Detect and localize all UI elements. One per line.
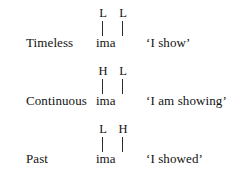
category-label-timeless: Timeless bbox=[26, 36, 73, 50]
category-label-continuous: Continuous bbox=[26, 94, 87, 108]
paradigm-row: Continuous H L ima ‘I am showing’ bbox=[0, 58, 248, 116]
tone-letter-second: L bbox=[117, 64, 129, 78]
category-label-past: Past bbox=[26, 152, 48, 166]
autosegmental-column: H L ima bbox=[96, 58, 142, 116]
association-lines bbox=[96, 21, 142, 36]
tone-letter-second: H bbox=[117, 122, 129, 136]
association-lines bbox=[96, 137, 142, 152]
association-line-second bbox=[122, 21, 123, 36]
tone-letter-first: H bbox=[97, 64, 109, 78]
gloss-timeless: ‘I show’ bbox=[146, 36, 191, 50]
segment-tier-text: ima bbox=[96, 94, 142, 108]
segment-tier-text: ima bbox=[96, 152, 142, 166]
paradigm-row: Timeless L L ima ‘I show’ bbox=[0, 0, 248, 58]
tone-tier: L H bbox=[96, 122, 142, 136]
tone-tier: L L bbox=[96, 6, 142, 20]
association-line-first bbox=[102, 21, 103, 36]
tone-tier: H L bbox=[96, 64, 142, 78]
gloss-past: ‘I showed’ bbox=[146, 152, 203, 166]
tone-paradigm-figure: Timeless L L ima ‘I show’ Continuous H L bbox=[0, 0, 248, 186]
tone-letter-first: L bbox=[97, 6, 109, 20]
tone-letter-first: L bbox=[97, 122, 109, 136]
gloss-continuous: ‘I am showing’ bbox=[146, 94, 227, 108]
segment-tier-text: ima bbox=[96, 36, 142, 50]
tone-letter-second: L bbox=[117, 6, 129, 20]
autosegmental-column: L L ima bbox=[96, 0, 142, 58]
association-line-second bbox=[122, 79, 123, 94]
association-line-first bbox=[102, 137, 103, 152]
association-line-first bbox=[102, 79, 103, 94]
association-lines bbox=[96, 79, 142, 94]
association-line-second bbox=[122, 137, 123, 152]
paradigm-row: Past L H ima ‘I showed’ bbox=[0, 116, 248, 174]
autosegmental-column: L H ima bbox=[96, 116, 142, 174]
